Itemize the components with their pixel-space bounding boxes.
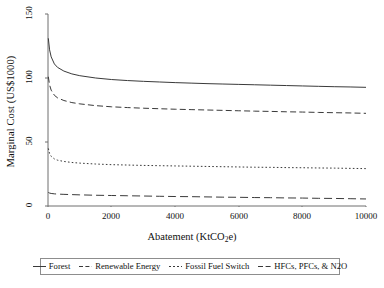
data-series-layer	[48, 38, 366, 199]
x-axis-title-pre: Abatement (KtCO	[147, 231, 224, 242]
legend-item-renewable-energy[interactable]: Renewable Energy	[79, 262, 160, 271]
x-axis-title-post: e)	[228, 231, 236, 242]
x-tick-label-0: 0	[46, 211, 51, 221]
y-tick-label-100: 100	[16, 72, 42, 82]
axis-spines	[45, 14, 366, 207]
y-tick-label-150: 150	[16, 8, 42, 18]
x-tick-label-8000: 8000	[293, 211, 311, 221]
series-line-fossil-fuel-switch	[48, 148, 366, 168]
y-axis-title-text: Marginal Cost (US$1000)	[6, 55, 17, 167]
y-tick-label-50: 50	[16, 136, 42, 146]
x-axis-title: Abatement (KtCO2e)	[0, 231, 384, 244]
legend-key-fossil-fuel-switch-icon	[169, 263, 182, 270]
legend-label-renewable-energy: Renewable Energy	[95, 262, 160, 271]
legend-key-hfcs-pfcs-n2o-icon	[258, 263, 271, 270]
x-tick-label-10000: 10000	[355, 211, 378, 221]
abatement-cost-chart: Marginal Cost (US$1000) 150 100 50 0	[0, 0, 384, 288]
series-line-hfcs-pfcs-n2o	[48, 192, 366, 199]
legend-item-fossil-fuel-switch[interactable]: Fossil Fuel Switch	[169, 262, 249, 271]
series-line-forest	[48, 38, 366, 87]
x-tick-label-6000: 6000	[230, 211, 248, 221]
legend-item-hfcs-pfcs-n2o[interactable]: HFCs, PFCs, & N2O	[258, 262, 347, 271]
plot-area	[45, 13, 367, 207]
y-tick-label-0: 0	[16, 200, 42, 210]
legend-label-forest: Forest	[49, 262, 70, 271]
y-axis-title: Marginal Cost (US$1000)	[2, 0, 20, 222]
x-tick-label-2000: 2000	[102, 211, 120, 221]
legend-label-hfcs-pfcs-n2o: HFCs, PFCs, & N2O	[274, 262, 347, 271]
legend-label-fossil-fuel-switch: Fossil Fuel Switch	[185, 262, 249, 271]
legend-key-forest-icon	[33, 263, 46, 270]
chart-legend: ForestRenewable EnergyFossil Fuel Switch…	[40, 258, 340, 275]
x-tick-label-4000: 4000	[166, 211, 184, 221]
legend-item-forest[interactable]: Forest	[33, 262, 70, 271]
series-line-renewable-energy	[48, 77, 366, 114]
legend-key-renewable-energy-icon	[79, 263, 92, 270]
